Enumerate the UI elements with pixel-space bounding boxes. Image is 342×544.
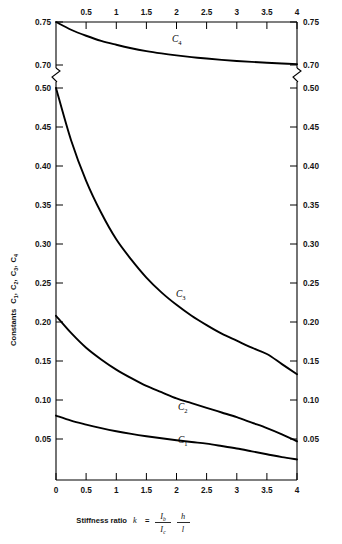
y-axis-title: Constants C1, C2, C3, C4 xyxy=(9,254,19,346)
curve-labels-group: C4 C3 C2 C1 xyxy=(172,34,188,447)
y-right-tick-label: 0.40 xyxy=(303,162,319,171)
x-axis-bottom-tick-labels: 0 0.5 1 1.5 2 2.5 3 3.5 4 xyxy=(54,486,300,495)
y-axis-left-tick-labels-lower: 0.50 0.45 0.40 0.35 0.30 0.25 0.20 0.15 … xyxy=(35,84,51,444)
curves-group xyxy=(56,22,297,459)
y-right-tick-label: 0.50 xyxy=(303,84,319,93)
curve-label-c1: C1 xyxy=(178,435,188,447)
svg-text:Ib: Ib xyxy=(159,512,166,522)
y-left-tick-label: 0.15 xyxy=(35,357,51,366)
x-top-tick-label: 1 xyxy=(114,8,119,17)
y-left-tick-label: 0.25 xyxy=(35,279,51,288)
fraction-h-l: h l xyxy=(177,512,190,534)
y-axis-left-ticks-lower xyxy=(56,88,63,439)
y-right-tick-label: 0.30 xyxy=(303,240,319,249)
svg-text:Constants C1,: Constants C1, C2, C3, C4 xyxy=(9,254,19,346)
y-right-tick-label: 0.35 xyxy=(303,201,319,210)
curve-c2 xyxy=(56,316,297,442)
x-axis-title-k: k xyxy=(133,516,137,525)
y-axis-right-tick-labels-lower: 0.50 0.45 0.40 0.35 0.30 0.25 0.20 0.15 … xyxy=(303,84,319,444)
x-axis-top-tick-labels: 0.5 1 1.5 2 2.5 3 3.5 4 xyxy=(80,8,299,17)
x-bottom-tick-label: 1 xyxy=(114,486,119,495)
x-top-tick-label: 2 xyxy=(174,8,179,17)
x-bottom-tick-label: 0 xyxy=(54,486,59,495)
x-top-tick-label: 3 xyxy=(235,8,240,17)
y-right-tick-label: 0.20 xyxy=(303,318,319,327)
x-top-tick-label: 4 xyxy=(295,8,300,17)
plot-frame xyxy=(52,22,301,480)
y-right-tick-label: 0.70 xyxy=(303,61,319,70)
y-axis-title-word: Constants xyxy=(9,309,18,346)
x-axis-top-ticks xyxy=(86,22,297,29)
fraction-ib-ic: Ib Ic xyxy=(155,512,171,535)
y-left-tick-label: 0.05 xyxy=(35,435,51,444)
curve-c3 xyxy=(56,88,297,374)
x-axis-bottom-ticks xyxy=(56,473,297,480)
chart-canvas: 0.5 1 1.5 2 2.5 3 3.5 4 0 0.5 1 1.5 2 xyxy=(0,0,342,544)
x-top-tick-label: 3.5 xyxy=(261,8,273,17)
x-top-tick-label: 1.5 xyxy=(141,8,153,17)
x-bottom-tick-label: 2 xyxy=(174,486,179,495)
y-axis-right-ticks-upper xyxy=(290,22,297,65)
y-left-tick-label: 0.75 xyxy=(35,18,51,27)
axis-break-right-icon xyxy=(293,68,301,82)
y-left-tick-label: 0.30 xyxy=(35,240,51,249)
curve-label-c4: C4 xyxy=(172,34,182,46)
x-bottom-tick-label: 3 xyxy=(235,486,240,495)
y-axis-left-tick-labels-upper: 0.75 0.70 xyxy=(35,18,51,70)
y-axis-right-tick-labels-upper: 0.75 0.70 xyxy=(303,18,319,70)
curve-label-c3: C3 xyxy=(176,289,186,301)
y-right-tick-label: 0.15 xyxy=(303,357,319,366)
y-right-tick-label: 0.05 xyxy=(303,435,319,444)
x-bottom-tick-label: 2.5 xyxy=(201,486,213,495)
y-left-tick-label: 0.20 xyxy=(35,318,51,327)
y-left-tick-label: 0.35 xyxy=(35,201,51,210)
y-right-tick-label: 0.45 xyxy=(303,123,319,132)
x-axis-title-text: Stiffness ratio xyxy=(76,516,127,525)
x-top-tick-label: 2.5 xyxy=(201,8,213,17)
y-right-tick-label: 0.25 xyxy=(303,279,319,288)
y-left-tick-label: 0.10 xyxy=(35,396,51,405)
y-left-tick-label: 0.70 xyxy=(35,61,51,70)
chart-figure: 0.5 1 1.5 2 2.5 3 3.5 4 0 0.5 1 1.5 2 xyxy=(0,0,342,544)
x-bottom-tick-label: 1.5 xyxy=(141,486,153,495)
svg-text:Ic: Ic xyxy=(159,525,166,535)
y-left-tick-label: 0.40 xyxy=(35,162,51,171)
x-bottom-tick-label: 0.5 xyxy=(80,486,92,495)
y-axis-left-ticks-upper xyxy=(56,22,63,65)
y-left-tick-label: 0.45 xyxy=(35,123,51,132)
curve-c1 xyxy=(56,416,297,460)
x-axis-title: Stiffness ratio k = Ib Ic h l xyxy=(76,512,190,535)
y-right-tick-label: 0.75 xyxy=(303,18,319,27)
y-right-tick-label: 0.10 xyxy=(303,396,319,405)
y-left-tick-label: 0.50 xyxy=(35,84,51,93)
x-axis-title-equals: = xyxy=(145,516,150,525)
curve-label-c2: C2 xyxy=(178,402,188,414)
x-top-tick-label: 0.5 xyxy=(80,8,92,17)
x-bottom-tick-label: 3.5 xyxy=(261,486,273,495)
svg-text:l: l xyxy=(182,525,185,534)
axis-break-left-icon xyxy=(52,68,60,82)
svg-text:h: h xyxy=(181,512,185,521)
y-axis-right-ticks-lower xyxy=(290,88,297,439)
x-bottom-tick-label: 4 xyxy=(295,486,300,495)
